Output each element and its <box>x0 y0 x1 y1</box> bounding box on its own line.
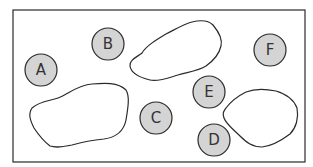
circle-e: E <box>193 76 225 108</box>
circle-b: B <box>92 28 124 60</box>
circle-label: A <box>36 61 47 79</box>
circle-d: D <box>198 124 230 156</box>
circles-and-blobs-diagram: ABCDEF <box>0 0 313 167</box>
circle-a: A <box>25 54 57 86</box>
circle-label: E <box>204 83 213 101</box>
circle-label: D <box>208 131 220 149</box>
circle-c: C <box>140 102 172 134</box>
circle-label: B <box>103 35 113 53</box>
circle-label: F <box>266 41 275 59</box>
circle-label: C <box>151 109 161 127</box>
circle-f: F <box>254 34 286 66</box>
